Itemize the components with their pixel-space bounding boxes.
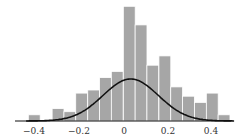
x-tick-label: −0.2 xyxy=(68,126,90,136)
x-tick-label: −0.4 xyxy=(23,126,45,136)
x-tick-label: 0.2 xyxy=(161,126,175,136)
histogram-bar xyxy=(171,87,183,121)
histogram-bar xyxy=(88,90,100,121)
x-tick-label: 0 xyxy=(121,126,127,136)
histogram-bar xyxy=(159,56,171,121)
histogram-chart: −0.4 −0.2 0 0.2 0.4 xyxy=(0,0,240,138)
histogram-bar xyxy=(206,93,218,121)
x-tick-label: 0.4 xyxy=(204,126,219,136)
histogram-bar xyxy=(76,93,88,121)
histogram-bar xyxy=(100,78,112,121)
histogram-bar xyxy=(111,71,123,121)
x-axis-ticks: −0.4 −0.2 0 0.2 0.4 xyxy=(23,126,218,136)
histogram-bar xyxy=(123,6,135,121)
histogram-bar xyxy=(135,25,147,121)
chart-canvas: −0.4 −0.2 0 0.2 0.4 xyxy=(0,0,240,138)
histogram-bars xyxy=(28,6,230,121)
